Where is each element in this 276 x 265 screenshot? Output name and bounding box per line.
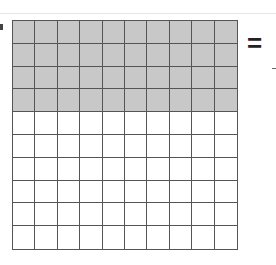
grid-cell (125, 112, 147, 135)
shaded-cell (147, 44, 169, 67)
grid-cell (13, 203, 35, 226)
grid-cell (103, 203, 125, 226)
shaded-cell (215, 89, 237, 112)
shaded-cell (58, 21, 80, 44)
shaded-cell (35, 44, 57, 67)
grid-cell (58, 135, 80, 158)
shaded-cell (125, 44, 147, 67)
grid-cell (215, 158, 237, 181)
shaded-cell (35, 89, 57, 112)
shaded-cell (147, 21, 169, 44)
grid-cell (35, 181, 57, 204)
grid-cell (147, 181, 169, 204)
grid-cell (80, 112, 102, 135)
grid-cell (58, 112, 80, 135)
grid-cell (58, 181, 80, 204)
grid-cell (103, 226, 125, 249)
shaded-cell (103, 44, 125, 67)
grid-cell (170, 158, 192, 181)
shaded-cell (58, 67, 80, 90)
equals-sign: = (247, 30, 262, 56)
shaded-cell (215, 21, 237, 44)
shaded-cell (170, 67, 192, 90)
grid-cell (35, 112, 57, 135)
shaded-cell (125, 89, 147, 112)
shaded-cell (80, 89, 102, 112)
grid-cell (80, 203, 102, 226)
grid-cell (192, 203, 214, 226)
grid-cell (192, 135, 214, 158)
shaded-cell (192, 89, 214, 112)
grid-cell (103, 158, 125, 181)
grid-cell (192, 158, 214, 181)
grid-cell (215, 203, 237, 226)
grid-cell (58, 226, 80, 249)
grid-cell (170, 181, 192, 204)
shaded-cell (170, 44, 192, 67)
shaded-cell (170, 89, 192, 112)
grid-cell (80, 135, 102, 158)
grid-cell (147, 158, 169, 181)
shaded-cell (80, 67, 102, 90)
top-divider (0, 13, 276, 14)
partial-label-mark (0, 24, 3, 30)
grid-cell (80, 181, 102, 204)
grid-cell (13, 112, 35, 135)
shaded-cell (13, 67, 35, 90)
grid-cell (215, 135, 237, 158)
shaded-cell (125, 21, 147, 44)
hundred-grid (12, 20, 238, 250)
grid-cell (13, 158, 35, 181)
grid-cell (35, 226, 57, 249)
shaded-cell (103, 21, 125, 44)
shaded-cell (147, 67, 169, 90)
grid-cell (103, 112, 125, 135)
grid-cell (125, 181, 147, 204)
grid-cell (147, 203, 169, 226)
shaded-cell (35, 21, 57, 44)
shaded-cell (80, 21, 102, 44)
grid-cell (170, 226, 192, 249)
grid-cell (103, 135, 125, 158)
shaded-cell (35, 67, 57, 90)
grid-cell (147, 135, 169, 158)
shaded-cell (80, 44, 102, 67)
grid-cell (13, 181, 35, 204)
grid-cell (13, 226, 35, 249)
shaded-cell (58, 44, 80, 67)
grid-cell (125, 158, 147, 181)
grid-cell (35, 203, 57, 226)
grid-cell (35, 135, 57, 158)
shaded-cell (192, 67, 214, 90)
shaded-cell (13, 21, 35, 44)
grid-cell (80, 158, 102, 181)
grid-cell (13, 135, 35, 158)
grid-cell (170, 135, 192, 158)
shaded-cell (215, 67, 237, 90)
answer-blank-mark (272, 68, 276, 69)
shaded-cell (192, 21, 214, 44)
grid-cell (125, 203, 147, 226)
grid-cell (215, 181, 237, 204)
grid-cell (147, 226, 169, 249)
grid-cell (192, 226, 214, 249)
shaded-cell (103, 89, 125, 112)
grid-cell (58, 203, 80, 226)
shaded-cell (13, 89, 35, 112)
shaded-cell (215, 44, 237, 67)
grid-cell (80, 226, 102, 249)
shaded-cell (147, 89, 169, 112)
grid-cell (103, 181, 125, 204)
grid-cell (215, 112, 237, 135)
shaded-cell (103, 67, 125, 90)
grid-cell (192, 112, 214, 135)
grid-cell (125, 135, 147, 158)
shaded-cell (192, 44, 214, 67)
grid-cell (192, 181, 214, 204)
grid-cell (170, 203, 192, 226)
grid-cell (35, 158, 57, 181)
shaded-cell (13, 44, 35, 67)
grid-cell (125, 226, 147, 249)
grid-cell (58, 158, 80, 181)
shaded-cell (125, 67, 147, 90)
